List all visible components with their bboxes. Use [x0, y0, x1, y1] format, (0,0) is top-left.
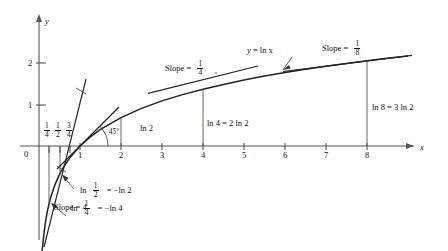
x-tick-label-4: 4: [201, 150, 206, 160]
slope-eighth-den: 8: [354, 49, 360, 57]
ln-quarter-rest: = −ln 4: [98, 203, 123, 213]
x-tick-label-7: 7: [324, 150, 328, 160]
slope-eighth-prefix: Slope =: [322, 43, 348, 53]
slope-eighth-num: 1: [354, 40, 360, 48]
ln-half-prefix: ln: [80, 185, 87, 195]
curve-equation-label: y = ln x: [247, 44, 273, 55]
ln4-label: ln 4 = 2 ln 2: [207, 118, 248, 128]
x-frac-tick-quarter: 1 4: [44, 120, 50, 139]
tangent-line-slope-eighth: [283, 55, 412, 71]
x-frac-tick-three-quarter-num: 3: [66, 122, 72, 130]
x-ticks-group: [49, 143, 367, 153]
ln-half-equation: ln 1 2 = −ln 2: [80, 180, 131, 199]
log-curve-figure: 0 1 2 3 4 5 6 7 8 1 2 x y 45° ln 2 ln 4 …: [0, 0, 448, 251]
leader-curve-arrowhead: [283, 65, 291, 70]
y-ticks-group: [36, 63, 46, 105]
slope-eighth-label: Slope = 1 8: [322, 38, 360, 57]
x-frac-tick-half-den: 2: [55, 131, 61, 139]
ln8-label: ln 8 = 3 ln 2: [372, 102, 413, 112]
slope-quarter-label: Slope = 1 4: [165, 58, 203, 77]
x-tick-label-8: 8: [365, 150, 369, 160]
tangent-line-slope-4: [44, 79, 86, 247]
leader-ln-half-arrowhead: [62, 175, 69, 182]
x-frac-tick-half-num: 1: [55, 122, 61, 130]
ln-curve-group: [42, 56, 408, 251]
y-axis-label: y: [44, 16, 49, 26]
origin-label: 0: [24, 149, 28, 159]
x-tick-label-6: 6: [283, 150, 287, 160]
ln-quarter-prefix: ln: [71, 203, 78, 213]
y-tick-label-1: 1: [28, 100, 32, 110]
x-tick-label-2: 2: [119, 150, 123, 160]
x-axis-label: x: [419, 142, 424, 152]
slope-quarter-den: 4: [197, 69, 203, 77]
tangent-4-tick: [76, 88, 86, 94]
x-tick-label-3: 3: [160, 150, 164, 160]
x-tick-label-1: 1: [78, 150, 82, 160]
tangent-slope-4-group: [44, 79, 86, 247]
x-frac-tick-three-quarter-den: 4: [66, 131, 72, 139]
x-frac-tick-quarter-num: 1: [44, 122, 50, 130]
y-tick-label-2: 2: [28, 58, 32, 68]
curve-equation-expr: ln x: [260, 45, 273, 55]
angle-45-label: 45°: [109, 127, 120, 136]
x-frac-tick-three-quarter: 3 4: [66, 120, 72, 139]
x-frac-tick-quarter-den: 4: [44, 131, 50, 139]
ln-quarter-equation: ln 1 4 = −ln 4: [71, 198, 122, 217]
slope-quarter-num: 1: [197, 60, 203, 68]
x-tick-label-5: 5: [242, 150, 246, 160]
slope-quarter-prefix: Slope =: [165, 63, 191, 73]
ln2-label: ln 2: [140, 123, 153, 133]
y-axis-arrowhead: [36, 14, 42, 22]
x-frac-tick-half: 1 2: [55, 120, 61, 139]
ln-curve: [42, 56, 408, 250]
x-axis-arrowhead: [406, 143, 414, 149]
ln-half-rest: = −ln 2: [107, 185, 132, 195]
tangent-slope-eighth-group: [283, 55, 412, 71]
